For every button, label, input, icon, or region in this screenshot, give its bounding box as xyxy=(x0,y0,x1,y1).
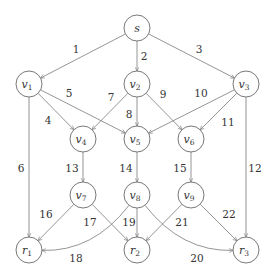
node-subscript: 9 xyxy=(190,194,195,203)
edge-label: 11 xyxy=(221,116,234,128)
edge-label: 2 xyxy=(141,50,148,62)
edge-label: 1 xyxy=(73,43,80,55)
edge-label: 10 xyxy=(194,87,207,99)
edge-label: 16 xyxy=(39,208,53,220)
edge-label: 14 xyxy=(119,162,133,174)
node-r2: r2 xyxy=(124,237,150,263)
edge-label: 20 xyxy=(190,252,203,264)
node-subscript: 3 xyxy=(244,249,249,258)
node-v3: v3 xyxy=(233,71,259,97)
node-v9: v9 xyxy=(178,182,204,208)
node-subscript: 7 xyxy=(82,194,87,203)
node-subscript: 3 xyxy=(245,83,250,92)
graph-diagram: 12345678910111213141516171819202122 sv1v… xyxy=(0,0,278,280)
edge-label: 8 xyxy=(126,108,133,120)
edge-label: 21 xyxy=(175,216,188,228)
node-subscript: 4 xyxy=(82,138,87,147)
edge-label: 9 xyxy=(160,88,167,100)
node-v4: v4 xyxy=(70,126,96,152)
node-subscript: 6 xyxy=(190,138,195,147)
node-v7: v7 xyxy=(70,182,96,208)
edge-label: 4 xyxy=(45,114,52,126)
node-r3: r3 xyxy=(233,237,259,263)
node-v1: v1 xyxy=(16,71,42,97)
edge-s-v3 xyxy=(149,34,235,78)
edge-label: 15 xyxy=(173,162,186,174)
edge-s-v1 xyxy=(41,34,126,78)
node-subscript: 2 xyxy=(136,83,141,92)
edge-label: 22 xyxy=(222,208,235,220)
edge-label: 6 xyxy=(18,162,25,174)
edge-label: 12 xyxy=(248,162,261,174)
edge-label: 19 xyxy=(122,216,135,228)
edge-label: 13 xyxy=(65,162,78,174)
edge-label: 7 xyxy=(108,91,115,103)
node-v5: v5 xyxy=(124,126,150,152)
node-s: s xyxy=(124,15,150,41)
edge-label: 17 xyxy=(83,216,96,228)
edge-label: 3 xyxy=(196,43,203,55)
node-subscript: 5 xyxy=(136,138,141,147)
node-v6: v6 xyxy=(178,126,204,152)
node-r1: r1 xyxy=(16,237,42,263)
node-v8: v8 xyxy=(124,182,150,208)
node-subscript: 1 xyxy=(28,83,33,92)
node-subscript: 8 xyxy=(136,194,141,203)
node-subscript: 2 xyxy=(135,249,140,258)
edge-label: 5 xyxy=(66,87,73,99)
node-subscript: 1 xyxy=(27,249,32,258)
node-v2: v2 xyxy=(124,71,150,97)
node-label: s xyxy=(134,22,140,35)
edge-label: 18 xyxy=(69,252,82,264)
